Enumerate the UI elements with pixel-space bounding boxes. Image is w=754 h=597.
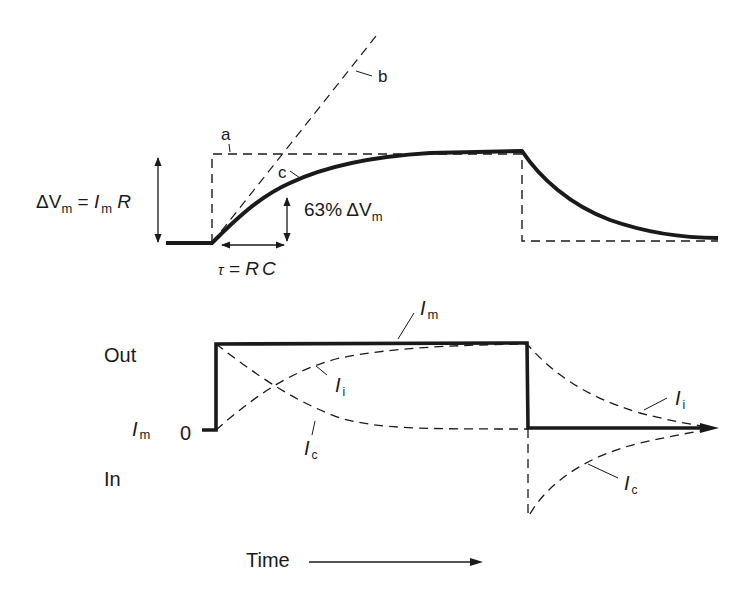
im-sub: m [101,201,112,216]
ii-2-label: Ii [675,387,685,412]
time-label: Time [246,549,290,571]
ic-2-label: Ic [624,472,638,497]
ic-1-main: I [304,437,310,459]
label-a: a [221,125,231,144]
im-curve-label: Im [420,297,438,322]
im-axis-label: Im [132,418,150,442]
im-axis-sub: m [140,427,151,442]
label-b-leader [356,71,372,76]
tau-equals: = [224,258,246,279]
delta-vm-main: ΔV [36,191,62,212]
ii-2-leader [644,398,667,410]
ii-1-sub: i [343,385,346,399]
ic-1-sub: c [312,448,318,462]
time-zero-arrowhead [700,423,719,433]
ic-1-label: Ic [304,437,318,462]
rc-label: RC [245,258,278,279]
zero-label: 0 [180,422,191,444]
in-label: In [104,468,121,490]
delta-vm-equals: = [72,191,94,212]
pct63-main: 63% ΔV [304,199,372,220]
curve-ii-ionic-current [216,344,715,430]
label-a-leader [229,144,230,152]
ii-1-main: I [335,374,341,396]
delta-vm-sub: m [61,201,72,216]
out-label: Out [104,344,137,366]
im-curve-sub: m [428,307,439,322]
im-curve-leader [398,313,414,339]
ii-2-sub: i [683,398,686,412]
im-main: I [94,191,100,212]
time-axis: Time [246,549,483,571]
ii-2-main: I [675,387,681,409]
label-c-leader [290,171,300,178]
ii-1-label: Ii [335,374,345,399]
ii-1-leader [316,366,327,375]
curve-im-current-pulse [202,343,706,430]
ic-1-leader [312,421,315,435]
label-c: c [278,163,287,182]
curve-ic-capacitive-current [216,344,712,516]
time-arrowhead-icon [470,558,483,566]
r-label: R [112,191,131,212]
tau-label: τ = RC [218,258,279,279]
label-b: b [378,67,387,86]
top-panel: a b c ΔVm = Im R 63% ΔVm τ = RC [36,36,718,279]
curve-c-membrane-response [166,151,718,243]
rc-membrane-diagram: a b c ΔVm = Im R 63% ΔVm τ = RC [0,0,754,597]
ic-2-main: I [624,472,630,494]
ic-2-leader [588,464,618,478]
delta-vm-label: ΔVm = Im R [36,191,131,216]
ic-2-sub: c [632,483,638,497]
bottom-panel: Out In Im 0 Im Ii Ic Ii Ic [104,297,719,516]
im-axis-main: I [132,418,138,440]
pct63-label: 63% ΔVm [304,199,382,224]
im-curve-main: I [420,297,426,319]
pct63-sub: m [372,209,383,224]
